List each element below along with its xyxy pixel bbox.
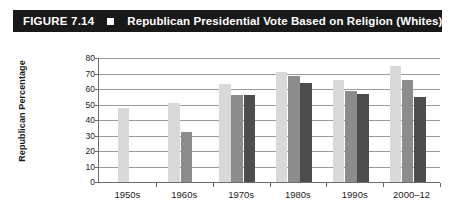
y-tick-mark — [95, 58, 99, 59]
y-axis-title: Republican Percentage — [17, 51, 27, 171]
gridline — [99, 58, 440, 59]
y-tick-label: 0 — [55, 177, 95, 187]
bar — [118, 108, 130, 182]
y-tick-label: 40 — [55, 115, 95, 125]
y-tick-label: 30 — [55, 131, 95, 141]
x-tick-mark — [156, 183, 157, 187]
bar — [414, 97, 426, 182]
plot-area: 01020304050607080 1950s1960s1970s1980s19… — [99, 58, 440, 182]
bar — [357, 94, 369, 182]
bar — [219, 84, 231, 182]
y-tick-mark — [95, 136, 99, 137]
x-tick-mark — [326, 183, 327, 187]
figure-title-label: Republican Presidential Vote Based on Re… — [127, 15, 442, 27]
bar — [244, 95, 256, 182]
bar — [181, 132, 193, 182]
y-tick-mark — [95, 182, 99, 183]
y-tick-mark — [95, 151, 99, 152]
y-tick-label: 50 — [55, 100, 95, 110]
x-axis-label: 1970s — [228, 189, 254, 200]
chart-area: Republican Percentage 01020304050607080 … — [0, 38, 449, 223]
x-tick-mark — [213, 183, 214, 187]
y-tick-label: 10 — [55, 162, 95, 172]
x-axis-label: 2000–12 — [393, 189, 430, 200]
figure-header: FIGURE 7.14 Republican Presidential Vote… — [13, 10, 442, 32]
x-axis-label: 1960s — [171, 189, 197, 200]
figure-number-label: FIGURE 7.14 — [23, 15, 94, 27]
x-axis-label: 1990s — [342, 189, 368, 200]
square-bullet-icon — [107, 18, 114, 25]
x-tick-mark — [383, 183, 384, 187]
y-tick-mark — [95, 120, 99, 121]
y-tick-label: 70 — [55, 69, 95, 79]
y-tick-label: 80 — [55, 53, 95, 63]
y-tick-label: 20 — [55, 146, 95, 156]
y-tick-mark — [95, 74, 99, 75]
y-tick-mark — [95, 105, 99, 106]
y-tick-label: 60 — [55, 84, 95, 94]
bar — [345, 91, 357, 182]
bar — [300, 83, 312, 182]
bar — [276, 72, 288, 182]
x-tick-mark — [270, 183, 271, 187]
x-axis-label: 1980s — [285, 189, 311, 200]
bar — [168, 103, 180, 182]
bar — [402, 80, 414, 182]
x-tick-mark — [440, 183, 441, 187]
bar — [288, 76, 300, 182]
y-tick-mark — [95, 167, 99, 168]
y-tick-mark — [95, 89, 99, 90]
x-axis-label: 1950s — [114, 189, 140, 200]
bar — [333, 80, 345, 182]
bar — [231, 95, 243, 182]
bar — [390, 66, 402, 182]
